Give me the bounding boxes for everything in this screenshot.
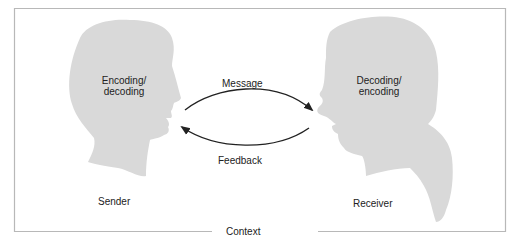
sender-process-label: Encoding/ decoding: [96, 75, 152, 97]
sender-role-label: Sender: [98, 196, 130, 207]
feedback-label: Feedback: [218, 155, 262, 166]
context-label: Context: [226, 226, 260, 237]
message-arrow: [185, 89, 312, 110]
communication-diagram: [0, 0, 515, 242]
receiver-head-silhouette: [317, 17, 453, 222]
feedback-arrow: [182, 127, 309, 145]
sender-process-line1: Encoding/: [96, 75, 152, 86]
receiver-process-line2: encoding: [351, 86, 407, 97]
message-label: Message: [222, 78, 263, 89]
sender-head-silhouette: [69, 20, 181, 177]
receiver-process-label: Decoding/ encoding: [351, 75, 407, 97]
sender-process-line2: decoding: [96, 86, 152, 97]
receiver-process-line1: Decoding/: [351, 75, 407, 86]
receiver-role-label: Receiver: [353, 198, 392, 209]
